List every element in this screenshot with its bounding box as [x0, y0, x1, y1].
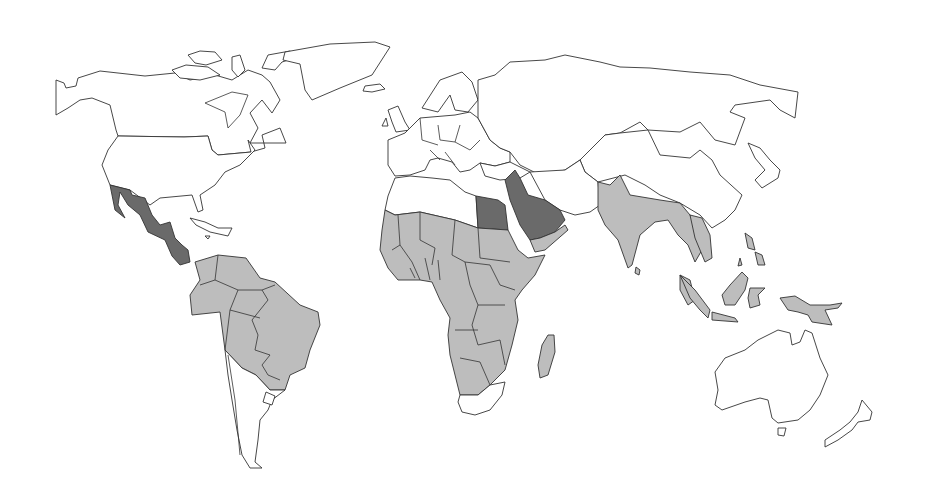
region-japan — [748, 143, 780, 188]
world-map-svg — [0, 0, 930, 503]
south-america — [190, 255, 320, 468]
region-scandinavia — [422, 72, 478, 112]
region-new-guinea — [780, 296, 842, 325]
region-philippines — [738, 233, 765, 266]
asia — [478, 55, 842, 325]
region-australia — [715, 330, 828, 423]
region-sri-lanka — [635, 267, 640, 275]
region-arctic-islands — [172, 51, 298, 80]
africa-middle-east — [380, 170, 568, 415]
region-tasmania — [778, 428, 786, 436]
region-new-zealand — [825, 400, 872, 447]
region-egypt — [476, 196, 508, 230]
world-map — [0, 0, 930, 503]
region-sub-saharan-africa — [380, 210, 545, 395]
region-south-america-north — [190, 255, 320, 390]
region-borneo — [722, 272, 748, 305]
region-caribbean — [190, 218, 232, 239]
oceania — [715, 330, 872, 447]
north-america — [56, 42, 390, 265]
region-iceland — [363, 84, 385, 92]
region-madagascar — [538, 335, 555, 378]
region-sulawesi — [748, 288, 765, 308]
region-uk — [382, 106, 410, 132]
